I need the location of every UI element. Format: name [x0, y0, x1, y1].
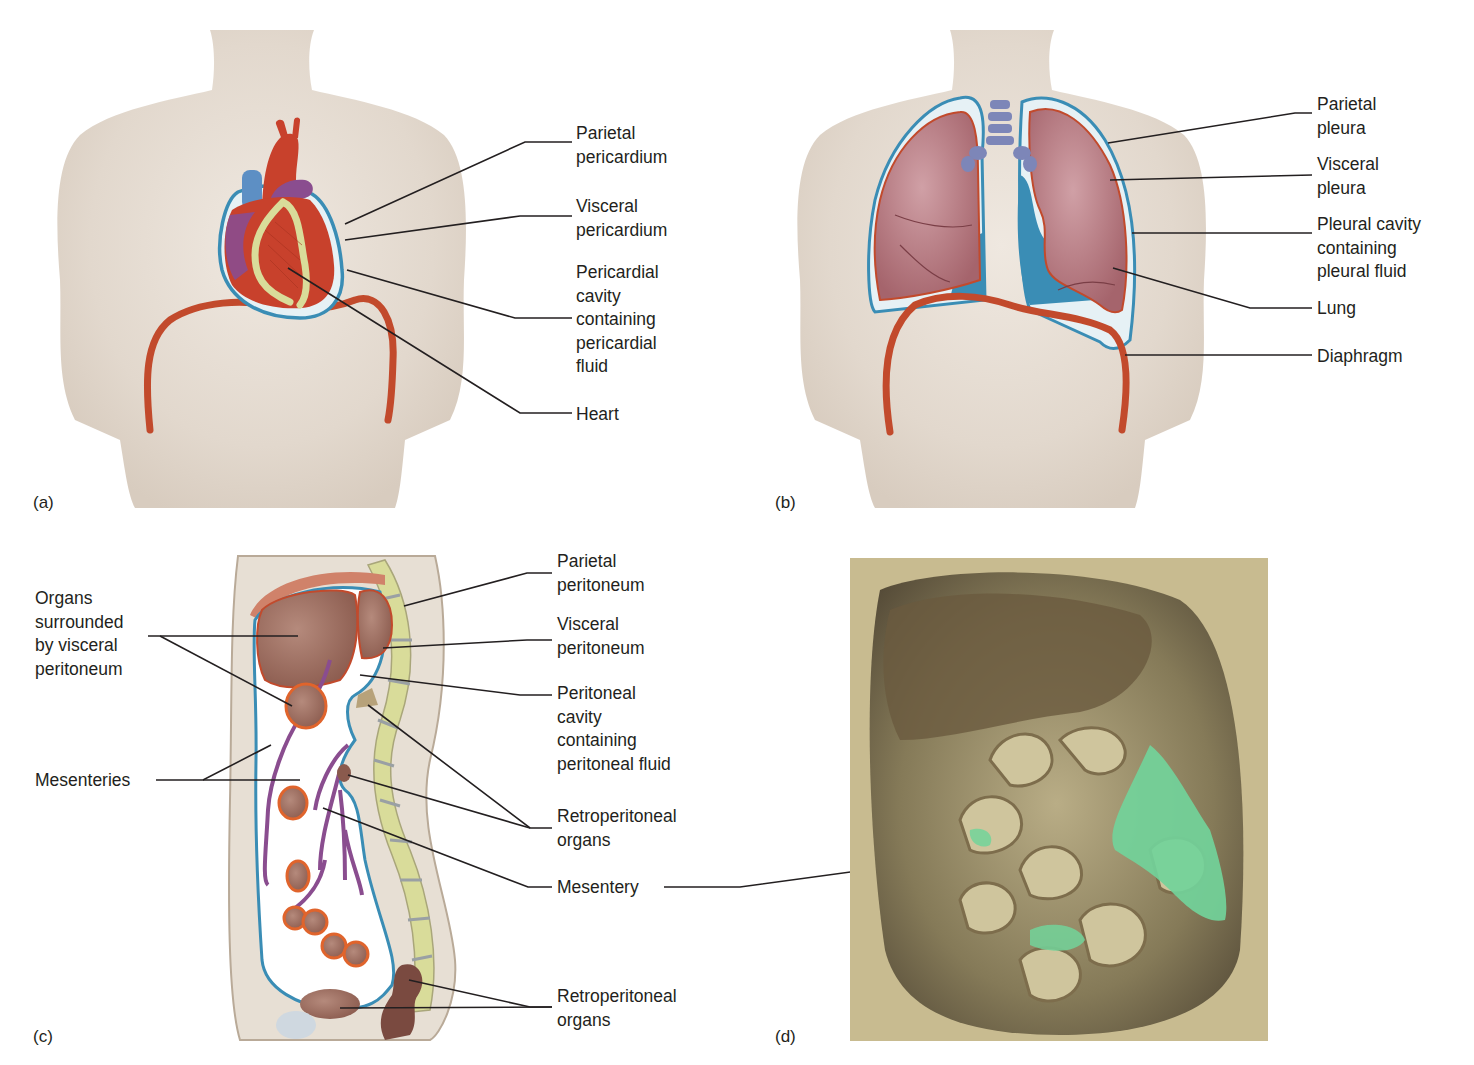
- label-line: Peritoneal: [557, 682, 671, 706]
- label-peritoneal-cavity: Peritoneal cavity containing peritoneal …: [557, 682, 671, 776]
- label-line: peritoneum: [35, 658, 124, 682]
- liver: [257, 590, 357, 687]
- label-organs-surrounded: Organs surrounded by visceral peritoneum: [35, 587, 124, 681]
- panel-letter-c: (c): [33, 1027, 53, 1047]
- panel-a-illustration: [57, 30, 466, 508]
- label-line: peritoneum: [557, 574, 645, 598]
- label-line: Pleural cavity: [1317, 213, 1421, 237]
- label-retroperitoneal-organs-lower: Retroperitoneal organs: [557, 985, 677, 1032]
- label-line: pleura: [1317, 117, 1376, 141]
- label-line: by visceral: [35, 634, 124, 658]
- label-pericardial-cavity: Pericardial cavity containing pericardia…: [576, 261, 659, 379]
- label-heart: Heart: [576, 403, 619, 427]
- label-line: fluid: [576, 355, 659, 379]
- panel-letter-a: (a): [33, 493, 54, 513]
- label-line: pleura: [1317, 177, 1379, 201]
- label-lung: Lung: [1317, 297, 1356, 321]
- label-line: Parietal: [1317, 93, 1376, 117]
- label-line: Visceral: [576, 195, 667, 219]
- label-line: pericardium: [576, 219, 667, 243]
- label-line: peritoneal fluid: [557, 753, 671, 777]
- label-line: cavity: [576, 285, 659, 309]
- intestine-loop-5: [322, 934, 346, 958]
- label-line: containing: [1317, 237, 1421, 261]
- label-parietal-peritoneum: Parietal peritoneum: [557, 550, 645, 597]
- label-mesentery: Mesentery: [557, 876, 639, 900]
- pubic-bone: [276, 1011, 316, 1039]
- intestine-loop-4: [303, 910, 327, 934]
- label-line: Mesenteries: [35, 769, 130, 793]
- label-line: Retroperitoneal: [557, 985, 677, 1009]
- label-line: Mesentery: [557, 876, 639, 900]
- intestine-loop-2: [287, 861, 309, 891]
- label-line: Organs: [35, 587, 124, 611]
- label-line: Lung: [1317, 297, 1356, 321]
- label-line: Parietal: [557, 550, 645, 574]
- label-line: Visceral: [1317, 153, 1379, 177]
- label-line: Pericardial: [576, 261, 659, 285]
- label-line: Heart: [576, 403, 619, 427]
- panel-c-illustration: [229, 556, 455, 1040]
- label-line: organs: [557, 1009, 677, 1033]
- label-line: pericardium: [576, 146, 667, 170]
- figure-artwork: [0, 0, 1474, 1065]
- label-visceral-peritoneum: Visceral peritoneum: [557, 613, 645, 660]
- label-line: pleural fluid: [1317, 260, 1421, 284]
- duodenum: [337, 764, 351, 782]
- label-parietal-pericardium: Parietal pericardium: [576, 122, 667, 169]
- panel-letter-d: (d): [775, 1027, 796, 1047]
- panel-b-illustration: [797, 30, 1206, 508]
- label-line: containing: [576, 308, 659, 332]
- label-line: containing: [557, 729, 671, 753]
- label-line: Parietal: [576, 122, 667, 146]
- label-line: Visceral: [557, 613, 645, 637]
- label-mesenteries: Mesenteries: [35, 769, 130, 793]
- intestine-loop-1: [279, 787, 307, 819]
- label-visceral-pleura: Visceral pleura: [1317, 153, 1379, 200]
- label-diaphragm: Diaphragm: [1317, 345, 1403, 369]
- label-line: Retroperitoneal: [557, 805, 677, 829]
- intestine-loop-6: [344, 942, 368, 966]
- label-line: cavity: [557, 706, 671, 730]
- label-line: surrounded: [35, 611, 124, 635]
- label-line: peritoneum: [557, 637, 645, 661]
- label-visceral-pericardium: Visceral pericardium: [576, 195, 667, 242]
- label-parietal-pleura: Parietal pleura: [1317, 93, 1376, 140]
- label-line: pericardial: [576, 332, 659, 356]
- panel-letter-b: (b): [775, 493, 796, 513]
- label-pleural-cavity: Pleural cavity containing pleural fluid: [1317, 213, 1421, 284]
- label-retroperitoneal-organs-upper: Retroperitoneal organs: [557, 805, 677, 852]
- panel-d-photo: [850, 558, 1268, 1041]
- label-line: organs: [557, 829, 677, 853]
- label-line: Diaphragm: [1317, 345, 1403, 369]
